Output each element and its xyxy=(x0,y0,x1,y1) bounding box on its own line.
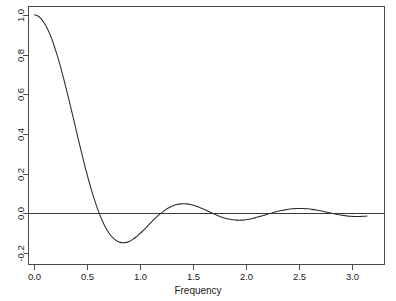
y-tick-label: 0.0 xyxy=(15,207,26,220)
y-tick-label: -0.2 xyxy=(15,245,26,261)
spectral-density-figure: -0.20.00.20.40.60.81.0 0.00.51.01.52.02.… xyxy=(0,0,396,301)
chart-canvas: -0.20.00.20.40.60.81.0 0.00.51.01.52.02.… xyxy=(0,0,396,301)
x-tick-label: 3.0 xyxy=(346,271,359,282)
plot-frame-box xyxy=(29,7,385,265)
x-tick-label: 1.0 xyxy=(134,271,147,282)
x-axis: 0.00.51.01.52.02.53.0 xyxy=(28,265,359,283)
y-tick-label: 0.6 xyxy=(15,88,26,101)
spectral-window-curve xyxy=(34,15,367,243)
y-tick-label: 0.4 xyxy=(15,128,26,141)
x-tick-label: 2.5 xyxy=(293,271,306,282)
y-axis: -0.20.00.20.40.60.81.0 xyxy=(15,9,29,262)
data-series-group xyxy=(34,15,367,243)
y-tick-label: 0.8 xyxy=(15,49,26,62)
x-axis-title: Frequency xyxy=(174,285,221,296)
y-tick-label: 1.0 xyxy=(15,9,26,22)
x-tick-label: 0.5 xyxy=(81,271,94,282)
plot-frame xyxy=(29,7,385,265)
x-tick-label: 2.0 xyxy=(240,271,253,282)
y-tick-label: 0.2 xyxy=(15,168,26,181)
x-tick-label: 0.0 xyxy=(28,271,41,282)
x-tick-label: 1.5 xyxy=(187,271,200,282)
